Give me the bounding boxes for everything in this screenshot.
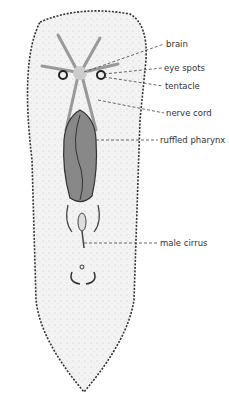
label-eye-spots: eye spots	[164, 64, 205, 73]
male-cirrus	[78, 213, 86, 231]
label-brain: brain	[166, 40, 188, 49]
planarian-illustration	[0, 0, 229, 396]
ruffled-pharynx	[64, 110, 97, 202]
label-male-cirrus: male cirrus	[160, 239, 207, 248]
label-tentacle: tentacle	[165, 82, 200, 91]
label-nerve-cord: nerve cord	[166, 109, 212, 118]
label-ruffled-pharynx: ruffled pharynx	[160, 136, 225, 145]
